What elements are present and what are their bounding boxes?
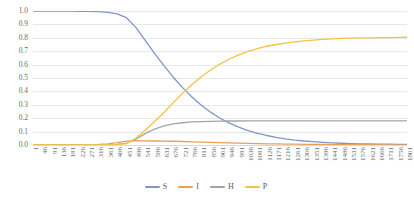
- y-axis-tick-label: 0.3: [19, 101, 28, 109]
- y-axis-tick-label: 0.9: [19, 21, 28, 29]
- legend-item-P[interactable]: P: [245, 183, 267, 191]
- x-axis-tick-label: 541: [145, 147, 152, 158]
- plot-area: [33, 11, 407, 145]
- series-layer: [33, 11, 407, 145]
- x-axis-tick-label: 361: [108, 147, 115, 158]
- x-axis-tick-label: 1576: [360, 147, 367, 161]
- x-axis-tick-label: 136: [61, 147, 68, 158]
- x-axis-tick-label: 226: [80, 147, 87, 158]
- x-axis-tick-label: 1396: [323, 147, 330, 161]
- x-axis-tick-label: 811: [201, 147, 208, 157]
- series-line-H: [33, 121, 407, 145]
- x-axis-tick-label: 1351: [314, 147, 321, 161]
- x-axis-tick-label: 1756: [398, 147, 405, 161]
- x-axis-tick-label: 1531: [351, 147, 358, 161]
- x-axis-tick-label: 991: [239, 147, 246, 158]
- x-axis: 1469113618122627131636140645149654158663…: [33, 147, 407, 177]
- x-axis-tick-label: 1216: [285, 147, 292, 161]
- y-axis: 1.00.90.80.70.60.50.40.30.20.10.0: [0, 11, 31, 145]
- x-axis-tick-label: 1126: [267, 147, 274, 161]
- legend-swatch-icon: [210, 186, 225, 188]
- legend-swatch-icon: [178, 186, 193, 188]
- x-axis-tick-label: 181: [70, 147, 77, 158]
- x-axis-tick-label: 631: [164, 147, 171, 158]
- y-axis-tick-label: 0.5: [19, 74, 28, 82]
- x-axis-tick-label: 1621: [370, 147, 377, 161]
- x-axis-tick-label: 1801: [407, 147, 414, 161]
- x-axis-tick-label: 1486: [342, 147, 349, 161]
- x-axis-tick-label: 1711: [388, 147, 395, 161]
- x-axis-tick-label: 766: [192, 147, 199, 158]
- x-axis-tick-label: 676: [173, 147, 180, 158]
- x-axis-tick-label: 271: [89, 147, 96, 158]
- y-axis-tick-label: 0.1: [19, 128, 28, 136]
- legend-label: H: [228, 183, 234, 191]
- series-line-P: [33, 37, 407, 145]
- y-axis-tick-label: 0.8: [19, 34, 28, 42]
- y-axis-tick-label: 0.0: [19, 141, 28, 149]
- x-axis-tick-label: 91: [52, 147, 59, 154]
- x-axis-tick-label: 1: [33, 147, 40, 151]
- series-line-S: [33, 11, 407, 144]
- x-axis-tick-label: 946: [229, 147, 236, 158]
- legend-item-H[interactable]: H: [210, 183, 234, 191]
- x-axis-tick-label: 406: [117, 147, 124, 158]
- y-axis-tick-label: 1.0: [19, 7, 28, 15]
- x-axis-tick-label: 1171: [276, 147, 283, 161]
- x-axis-tick-label: 1261: [295, 147, 302, 161]
- chart-legend: SIHP: [0, 183, 412, 191]
- x-axis-tick-label: 586: [155, 147, 162, 158]
- x-axis-tick-label: 901: [220, 147, 227, 158]
- x-axis-tick-label: 46: [42, 147, 49, 154]
- legend-item-I[interactable]: I: [178, 183, 199, 191]
- legend-label: I: [196, 183, 199, 191]
- x-axis-tick-label: 856: [211, 147, 218, 158]
- legend-item-S[interactable]: S: [145, 183, 167, 191]
- x-axis-tick-label: 451: [127, 147, 134, 158]
- legend-label: P: [263, 183, 267, 191]
- x-axis-tick-label: 1306: [304, 147, 311, 161]
- legend-label: S: [163, 183, 167, 191]
- x-axis-tick-label: 1441: [332, 147, 339, 161]
- legend-swatch-icon: [145, 186, 160, 188]
- y-axis-tick-label: 0.7: [19, 47, 28, 55]
- x-axis-tick-label: 721: [183, 147, 190, 158]
- x-axis-tick-label: 496: [136, 147, 143, 158]
- y-axis-tick-label: 0.4: [19, 88, 28, 96]
- legend-swatch-icon: [245, 186, 260, 188]
- y-axis-tick-label: 0.6: [19, 61, 28, 69]
- y-axis-tick-label: 0.2: [19, 114, 28, 122]
- x-axis-tick-label: 1666: [379, 147, 386, 161]
- x-axis-tick-label: 1081: [257, 147, 264, 161]
- x-axis-tick-label: 1036: [248, 147, 255, 161]
- x-axis-tick-label: 316: [98, 147, 105, 158]
